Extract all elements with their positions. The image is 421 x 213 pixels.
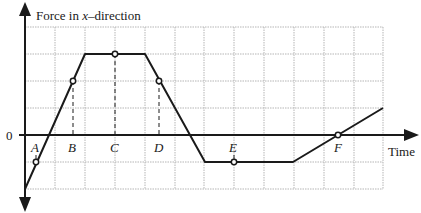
point-a [33, 159, 38, 164]
y-axis-label: Force in x–direction [36, 8, 141, 23]
zero-label: 0 [6, 128, 13, 143]
axes [19, 2, 419, 212]
label-e: E [228, 140, 237, 155]
point-e [231, 159, 236, 164]
y-axis-down-arrow-icon [19, 197, 31, 212]
label-b: B [68, 140, 76, 155]
label-c: C [110, 140, 119, 155]
point-c [112, 51, 117, 56]
force-curve [25, 54, 383, 189]
force-time-graph: Force in x–direction 0 Time A B C D E F [0, 0, 421, 213]
grid [25, 27, 383, 189]
point-b [70, 78, 75, 83]
x-axis-label: Time [388, 144, 415, 159]
label-d: D [153, 140, 164, 155]
label-f: F [333, 140, 343, 155]
label-a: A [30, 140, 39, 155]
point-d [156, 78, 161, 83]
x-axis-right-arrow-icon [404, 129, 419, 141]
y-axis-up-arrow-icon [19, 2, 31, 16]
point-f [335, 132, 340, 137]
